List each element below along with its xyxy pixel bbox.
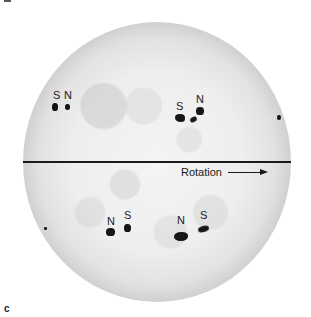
cropped-panel-mark	[4, 0, 11, 2]
polarity-label-s: S	[200, 210, 207, 221]
polarity-label-s: S	[124, 210, 131, 221]
sunspot	[52, 103, 58, 111]
polarity-label-n: N	[196, 94, 204, 105]
sunspot	[174, 232, 188, 241]
solar-equator-line	[23, 161, 291, 163]
sunspot	[124, 224, 131, 232]
polarity-label-s: S	[53, 90, 60, 101]
limb-sunspot	[44, 227, 47, 230]
polarity-label-n: N	[107, 216, 115, 227]
polarity-label-s: S	[176, 101, 183, 112]
sunspot	[196, 107, 204, 115]
sunspot	[106, 228, 115, 236]
sunspot	[65, 104, 70, 110]
sunspot	[175, 114, 185, 122]
polarity-label-n: N	[64, 90, 72, 101]
rotation-indicator: Rotation	[181, 166, 266, 178]
sun-figure: S N S N N S N S Rotation c	[0, 0, 311, 317]
arrow-right-icon	[228, 172, 266, 173]
panel-label: c	[4, 303, 10, 314]
limb-sunspot	[277, 115, 281, 120]
polarity-label-n: N	[177, 215, 185, 226]
rotation-label: Rotation	[181, 166, 222, 178]
